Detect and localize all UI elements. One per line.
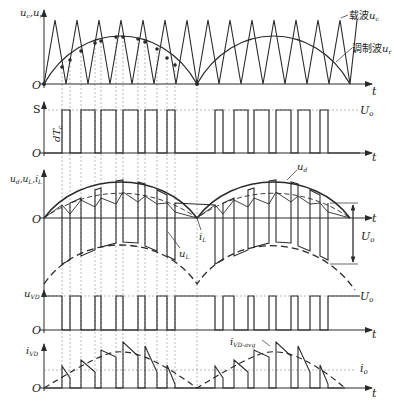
uL-label: uL [179,248,189,260]
modulation-leader [336,48,352,62]
panel-carrier-modulation [40,10,372,88]
p4-t-label: t [372,328,377,341]
carrier-wave [44,20,357,84]
panel-voltages-current [40,170,372,290]
carrier-leader [341,15,348,18]
uVD-pulses [44,296,360,330]
p1-y-label: uc,ur [20,7,43,19]
p2-y-label: S [33,103,41,116]
ud-label: ud [297,161,307,173]
p4-Uo-label: Uo [360,290,374,304]
iavg-leader [262,340,270,346]
uL-leader [168,232,180,248]
p2-t-label: t [372,151,377,164]
modulation-wave [44,36,350,84]
p4-y-label: uVD [24,288,40,300]
iVD-pulses [44,342,345,388]
carrier-label: 载波uc [349,9,379,22]
p5-y-label: iVD [26,345,39,357]
dTc-label: dTc [51,125,63,142]
panel-diode-voltage [40,290,372,333]
p3-y-label: ud,uL,iL [10,174,42,185]
panel-diode-current [40,340,372,391]
iL-label: iL [199,231,206,243]
switch-pulses [44,110,360,153]
p5-origin: O [32,382,41,395]
panel-switch-signal [40,102,372,156]
p3-origin: O [32,213,41,226]
modulation-label: 调制波ur [352,42,391,55]
p3-t-label: t [372,212,377,225]
p1-origin: O [32,79,41,92]
iVD-avg-label: iVD-avg [230,336,255,349]
uL-pulses [62,180,328,264]
ud-leader [287,170,297,180]
io-label: io [360,362,368,376]
p5-t-label: t [372,387,377,400]
p4-origin: O [32,324,41,337]
p2-Uo-label: Uo [360,104,374,118]
p1-t-label: t [372,85,377,98]
p2-origin: O [32,147,41,160]
iL-leader [197,218,201,230]
p3-Uo-label: Uo [361,230,375,244]
pwm-waveform-diagram: uc,ur O t 载波uc 调制波ur S O t dTc Uo ud,uL,… [0,0,394,403]
